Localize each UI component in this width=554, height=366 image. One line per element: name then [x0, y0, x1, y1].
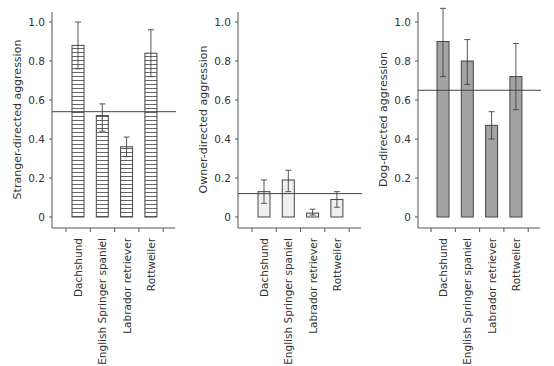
- x-category-label: Rottweiler: [145, 237, 157, 291]
- y-tick-label: 1.0: [394, 16, 411, 28]
- y-tick-label: 0.8: [28, 55, 45, 67]
- y-tick-label: 0.6: [28, 94, 45, 106]
- y-tick-label: 0.2: [214, 172, 231, 184]
- x-category-label: Labrador retriever: [121, 237, 133, 333]
- x-category-label: Rottweiler: [331, 237, 343, 291]
- y-tick-label: 1.0: [28, 16, 45, 28]
- y-tick-label: 0.6: [394, 94, 411, 106]
- x-category-label: English Springer spaniel: [461, 238, 473, 365]
- y-tick-label: 0.4: [394, 133, 411, 145]
- y-tick-label: 0.4: [28, 133, 45, 145]
- x-category-label: Labrador retriever: [307, 237, 319, 333]
- y-tick-label: 0: [224, 211, 231, 223]
- x-category-label: English Springer spaniel: [96, 238, 108, 365]
- x-category-label: Dachshund: [72, 238, 84, 297]
- x-category-label: Dachshund: [437, 238, 449, 297]
- stranger-directed-panel: 00.20.40.60.81.0Stranger-directed aggres…: [11, 12, 176, 365]
- y-tick-label: 0.2: [394, 172, 411, 184]
- y-tick-label: 0: [404, 211, 411, 223]
- bar-dachshund: [72, 45, 84, 217]
- x-category-label: Dachshund: [258, 238, 270, 297]
- bar-labrador-retriever: [121, 147, 133, 217]
- aggression-charts: 00.20.40.60.81.0Stranger-directed aggres…: [0, 0, 554, 366]
- x-category-label: English Springer spaniel: [282, 238, 294, 365]
- bar-rottweiler: [145, 53, 157, 217]
- owner-directed-panel: 00.20.40.60.81.0Owner-directed aggressio…: [197, 12, 362, 365]
- y-tick-label: 0.2: [28, 172, 45, 184]
- y-tick-label: 0.6: [214, 94, 231, 106]
- y-tick-label: 1.0: [214, 16, 231, 28]
- x-category-label: Rottweiler: [510, 237, 522, 291]
- y-tick-label: 0: [38, 211, 45, 223]
- y-tick-label: 0.8: [214, 55, 231, 67]
- y-tick-label: 0.4: [214, 133, 231, 145]
- y-tick-label: 0.8: [394, 55, 411, 67]
- y-axis-title: Dog-directed aggression: [377, 52, 390, 187]
- dog-directed-panel: 00.20.40.60.81.0Dog-directed aggressionD…: [377, 8, 541, 364]
- x-category-label: Labrador retriever: [486, 237, 498, 333]
- y-axis-title: Owner-directed aggression: [197, 46, 210, 194]
- y-axis-title: Stranger-directed aggression: [11, 40, 24, 200]
